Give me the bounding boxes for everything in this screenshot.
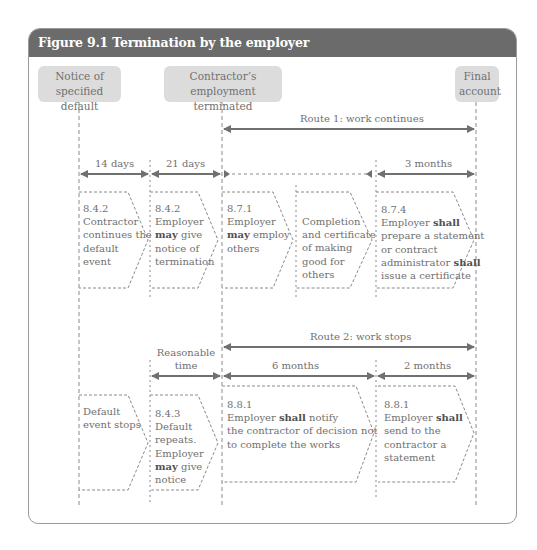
box-line: Completion [302, 215, 376, 228]
box-8-7-4: 8.7.4 Employer shall prepare a statement… [381, 203, 484, 282]
period-6-months: 6 months [272, 359, 319, 372]
box-line: notice of [155, 242, 214, 255]
period-reasonable-time: Reasonable time [156, 346, 216, 372]
box-text: Employer [384, 412, 436, 423]
box-line: to complete the works [227, 438, 377, 451]
emphasis: shall [279, 412, 306, 423]
box-line: or contract [381, 243, 484, 256]
clause-number: 8.4.2 [83, 202, 152, 215]
period-2-months: 2 months [404, 359, 451, 372]
clause-number: 8.7.4 [381, 203, 484, 216]
emphasis: may [155, 229, 178, 240]
box-line: Employer [227, 215, 290, 228]
route1-label: Route 1: work continues [300, 112, 424, 125]
box-line: Employer shall notify [227, 411, 377, 424]
box-line: Employer [155, 447, 204, 460]
box-text: Employer [381, 217, 433, 228]
clause-number: 8.8.1 [227, 398, 377, 411]
box-8-4-2-employer: 8.4.2 Employer may give notice of termin… [155, 202, 214, 268]
box-8-7-1: 8.7.1 Employer may employ others [227, 202, 290, 255]
emphasis: shall [433, 217, 460, 228]
box-line: Employer shall [381, 216, 484, 229]
period-label-line: time [156, 359, 216, 372]
emphasis: shall [436, 412, 463, 423]
box-line: others [302, 268, 376, 281]
box-8-8-1-notify: 8.8.1 Employer shall notify the contract… [227, 398, 377, 451]
box-8-8-1-statement: 8.8.1 Employer shall send to the contrac… [384, 398, 463, 464]
box-line: Default [83, 405, 141, 418]
box-text: administrator [381, 257, 454, 268]
period-14-days: 14 days [95, 157, 134, 170]
box-line: continues the [83, 228, 152, 241]
box-line: the contractor of decision not [227, 424, 377, 437]
box-line: repeats. [155, 433, 204, 446]
box-text: Employer [227, 412, 279, 423]
box-line: notice [155, 473, 204, 486]
box-line: administrator shall [381, 256, 484, 269]
clause-number: 8.4.3 [155, 407, 204, 420]
box-line: prepare a statement [381, 229, 484, 242]
box-completion: Completion and certificate of making goo… [302, 215, 376, 281]
box-text: give [181, 229, 202, 240]
period-label-line: Reasonable [156, 346, 216, 359]
clause-number: 8.4.2 [155, 202, 214, 215]
box-line: may employ [227, 228, 290, 241]
box-line: statement [384, 451, 463, 464]
clause-number: 8.7.1 [227, 202, 290, 215]
box-line: good for [302, 255, 376, 268]
box-line: others [227, 242, 290, 255]
box-line: termination [155, 255, 214, 268]
box-line: event [83, 255, 152, 268]
box-line: of making [302, 241, 376, 254]
box-line: send to the [384, 424, 463, 437]
box-8-4-3: 8.4.3 Default repeats. Employer may give… [155, 407, 204, 486]
emphasis: shall [454, 257, 481, 268]
box-line: may give [155, 460, 204, 473]
box-line: Contractor [83, 215, 152, 228]
box-line: Employer shall [384, 411, 463, 424]
emphasis: may [155, 461, 178, 472]
box-8-4-2-contractor: 8.4.2 Contractor continues the default e… [83, 202, 152, 268]
box-line: event stops [83, 418, 141, 431]
route2-label: Route 2: work stops [310, 330, 411, 343]
box-default-event-stops: Default event stops [83, 405, 141, 431]
period-21-days: 21 days [166, 157, 205, 170]
box-text: give [181, 461, 202, 472]
box-text: employ [253, 229, 290, 240]
emphasis: may [227, 229, 250, 240]
box-text: notify [306, 412, 338, 423]
box-line: default [83, 242, 152, 255]
box-line: Employer [155, 215, 214, 228]
box-line: contractor a [384, 438, 463, 451]
clause-number: 8.8.1 [384, 398, 463, 411]
box-line: Default [155, 420, 204, 433]
box-line: may give [155, 228, 214, 241]
period-3-months: 3 months [405, 157, 452, 170]
box-line: issue a certificate [381, 269, 484, 282]
box-line: and certificate [302, 228, 376, 241]
